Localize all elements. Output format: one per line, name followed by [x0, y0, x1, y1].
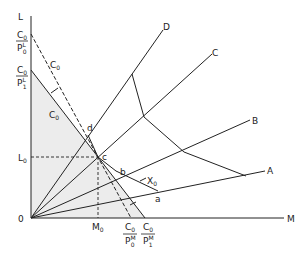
m0-label: M0	[92, 222, 104, 233]
origin-label: 0	[18, 214, 24, 224]
ray-b-label: B	[252, 116, 258, 126]
point-a-label: a	[155, 194, 161, 204]
production-diagram: L M 0 C0 PL0 C0 PL1 L0 M0 C0 PM0 C0 PM1 …	[0, 0, 306, 256]
outer-isoquant	[132, 74, 246, 176]
ray-c-label: C	[212, 48, 218, 58]
y-intercept-lower-label: C0 PL1	[16, 65, 28, 90]
x-intercept-left-label: C0 PM0	[123, 222, 137, 248]
svg-text:PL0: PL0	[17, 41, 27, 55]
budget-shift-arrow-top	[51, 88, 58, 93]
isoquant-x0-label: X0	[147, 176, 157, 187]
x-intercept-right-label: C0 PM1	[141, 222, 155, 248]
svg-text:C0: C0	[17, 65, 27, 76]
point-c-label: c	[102, 152, 107, 162]
svg-text:PL1: PL1	[17, 76, 27, 90]
x-axis-label: M	[287, 214, 295, 224]
point-d-label: d	[87, 123, 93, 133]
svg-text:PM0: PM0	[125, 234, 136, 248]
isoquant-pointer-arrow	[140, 178, 146, 181]
y-axis-label: L	[18, 12, 23, 22]
l0-label: L0	[18, 153, 27, 164]
svg-text:C0: C0	[143, 222, 153, 233]
svg-text:C0: C0	[17, 30, 27, 41]
y-intercept-upper-label: C0 PL0	[16, 30, 28, 55]
svg-text:PM1: PM1	[143, 234, 154, 248]
dashed-budget-label: C0	[50, 60, 60, 71]
svg-text:C0: C0	[125, 222, 135, 233]
point-b-label: b	[120, 167, 126, 177]
ray-a-label: A	[267, 166, 274, 176]
ray-d-label: D	[163, 22, 170, 32]
